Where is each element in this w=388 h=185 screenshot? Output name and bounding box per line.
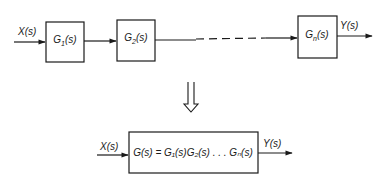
equiv-output-label: Y(s) (263, 139, 281, 149)
block-g2-label: G2(s) (124, 33, 147, 47)
input-label: X(s) (18, 27, 36, 37)
hollow-down-arrow-icon (184, 82, 198, 112)
equivalent-block-label: G(s) = G₁(s)G₂(s) . . . Gₙ(s) (133, 148, 253, 158)
equiv-input-label: X(s) (100, 142, 118, 152)
output-label: Y(s) (340, 21, 358, 31)
block-g1-label: G1(s) (53, 35, 76, 49)
dashed-continuation-line (196, 38, 266, 39)
block-gn-label: Gn(s) (305, 30, 328, 44)
